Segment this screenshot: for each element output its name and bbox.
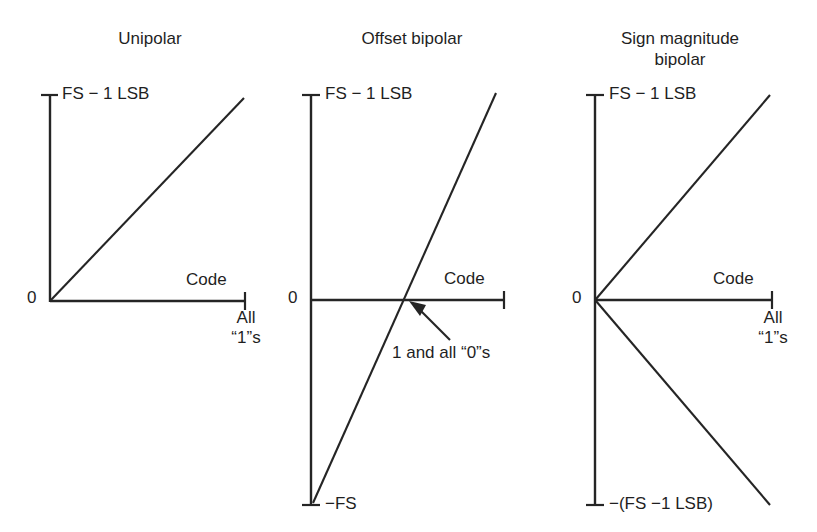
transfer-function-figure: Unipolar FS − 1 LSB 0 Code All “1”s Offs…: [0, 0, 817, 532]
unipolar-x-axis-label: Code: [186, 270, 227, 290]
panel-title-sign-magnitude-bipolar: Sign magnitude bipolar: [580, 28, 780, 70]
offset-bipolar-origin-label: 0: [288, 288, 297, 307]
unipolar-origin-label: 0: [27, 288, 36, 307]
sign-magnitude-x-end-label: All “1”s: [732, 308, 814, 348]
offset-bipolar-annotation-label: 1 and all “0”s: [392, 343, 490, 363]
unipolar-y-top-label: FS − 1 LSB: [62, 84, 149, 104]
unipolar-x-end-label: All “1”s: [205, 308, 287, 348]
sign-magnitude-y-bottom-label: −(FS −1 LSB): [609, 494, 713, 514]
offset-bipolar-y-top-label: FS − 1 LSB: [325, 84, 412, 104]
offset-bipolar-callout-arrow: [409, 301, 450, 340]
panel-offset-bipolar-graphics: [302, 93, 504, 505]
sign-magnitude-y-top-label: FS − 1 LSB: [609, 84, 696, 104]
panel-sign-magnitude-graphics: [586, 95, 772, 505]
offset-bipolar-y-bottom-label: −FS: [325, 494, 357, 514]
offset-bipolar-transfer-line: [313, 93, 496, 503]
sign-magnitude-x-axis-label: Code: [713, 269, 754, 289]
offset-bipolar-x-axis-label: Code: [444, 269, 485, 289]
panel-title-offset-bipolar: Offset bipolar: [317, 28, 507, 49]
panel-title-unipolar: Unipolar: [60, 28, 240, 49]
figure-canvas: [0, 0, 817, 532]
sign-magnitude-origin-label: 0: [572, 288, 581, 307]
